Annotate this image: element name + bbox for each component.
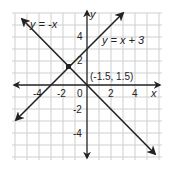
label-intersection: (-1.5, 1.5): [90, 71, 133, 82]
label-line1: y = -x: [29, 18, 58, 30]
y-tick-4: 4: [77, 31, 83, 42]
intersection-point: [66, 64, 71, 69]
graph: y = -x y = x + 3 (-1.5, 1.5) y x -4 -2 0…: [0, 0, 169, 170]
x-tick-neg4: -4: [33, 88, 42, 99]
x-axis-label: x: [150, 87, 157, 99]
x-tick-2: 2: [108, 88, 114, 99]
y-axis-label: y: [89, 8, 97, 20]
x-tick-0: 0: [77, 88, 83, 99]
y-tick-2: 2: [77, 55, 83, 66]
y-tick-neg4: -4: [73, 128, 82, 139]
x-tick-neg2: -2: [57, 88, 66, 99]
x-tick-4: 4: [132, 88, 138, 99]
y-tick-neg2: -2: [73, 104, 82, 115]
label-line2: y = x + 3: [101, 34, 145, 46]
